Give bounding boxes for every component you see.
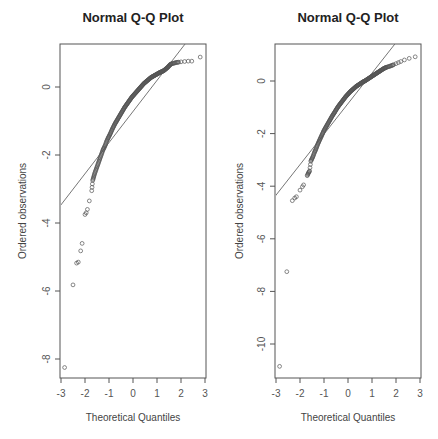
y-tick-label: -4 bbox=[41, 218, 52, 227]
left-qq-plot: Normal Q-Q Plot Theoretical Quantiles Or… bbox=[17, 10, 210, 423]
left-plot-title: Normal Q-Q Plot bbox=[82, 10, 184, 25]
qq-point bbox=[183, 60, 187, 64]
y-tick-label: -2 bbox=[41, 150, 52, 159]
x-tick-label: 2 bbox=[178, 388, 184, 399]
y-tick-label: -4 bbox=[256, 181, 267, 190]
x-tick-label: -2 bbox=[296, 388, 305, 399]
y-tick-label: 0 bbox=[256, 78, 267, 84]
qq-point bbox=[298, 188, 302, 192]
x-tick-label: -1 bbox=[105, 388, 114, 399]
qq-point bbox=[71, 283, 75, 287]
y-tick-label: -2 bbox=[256, 129, 267, 138]
qq-point bbox=[186, 59, 190, 63]
x-tick-label: 3 bbox=[417, 388, 423, 399]
qq-point bbox=[190, 59, 194, 63]
x-tick-label: 1 bbox=[369, 388, 375, 399]
x-tick-label: -3 bbox=[272, 388, 281, 399]
x-tick-label: 0 bbox=[345, 388, 351, 399]
qq-point bbox=[86, 208, 90, 212]
x-tick-label: -1 bbox=[320, 388, 329, 399]
x-tick-label: -3 bbox=[57, 388, 66, 399]
x-tick-label: 0 bbox=[130, 388, 136, 399]
x-tick-label: 2 bbox=[393, 388, 399, 399]
qq-point bbox=[397, 61, 401, 65]
qq-point bbox=[198, 55, 202, 59]
qq-plots-canvas: Normal Q-Q Plot Theoretical Quantiles Or… bbox=[0, 0, 438, 439]
left-x-axis-label: Theoretical Quantiles bbox=[86, 412, 181, 423]
right-plot-title: Normal Q-Q Plot bbox=[297, 10, 399, 25]
qq-point bbox=[278, 364, 282, 368]
qq-point bbox=[285, 270, 289, 274]
qq-point bbox=[79, 249, 83, 253]
right-y-axis-label: Ordered observations bbox=[234, 163, 245, 259]
y-tick-label: -6 bbox=[256, 234, 267, 243]
qq-point bbox=[413, 55, 417, 59]
right-x-axis-label: Theoretical Quantiles bbox=[301, 412, 396, 423]
qq-point bbox=[399, 60, 403, 64]
qq-point bbox=[87, 199, 91, 203]
y-tick-label: -10 bbox=[256, 336, 267, 351]
y-tick-label: -8 bbox=[41, 354, 52, 363]
y-tick-label: -8 bbox=[256, 287, 267, 296]
left-y-axis-label: Ordered observations bbox=[17, 163, 28, 259]
qq-point bbox=[63, 366, 67, 370]
y-tick-label: 0 bbox=[41, 84, 52, 90]
x-tick-label: -2 bbox=[81, 388, 90, 399]
qq-reference-line bbox=[56, 12, 210, 211]
qq-points bbox=[63, 55, 202, 369]
qq-reference-line bbox=[271, 6, 425, 201]
right-qq-plot: Normal Q-Q Plot Theoretical Quantiles Or… bbox=[234, 6, 425, 423]
qq-point bbox=[80, 242, 84, 246]
x-tick-label: 1 bbox=[154, 388, 160, 399]
qq-point bbox=[407, 56, 411, 60]
qq-point bbox=[394, 62, 398, 66]
qq-points bbox=[278, 55, 417, 368]
y-tick-label: -6 bbox=[41, 286, 52, 295]
x-tick-label: 3 bbox=[202, 388, 208, 399]
qq-point bbox=[403, 58, 407, 62]
